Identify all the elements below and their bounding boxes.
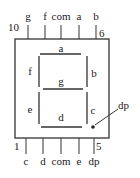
top-pin-label-a: a <box>77 11 82 22</box>
dp-leader-line <box>95 109 118 125</box>
seven-segment-drawing <box>0 0 140 178</box>
segment-label-b: b <box>91 68 97 79</box>
decimal-point-dot <box>91 125 95 129</box>
top-pin-label-com: com <box>52 11 71 22</box>
decimal-point-label: dp <box>118 100 129 111</box>
top-pin-label-f: f <box>43 11 47 22</box>
segment-label-g: g <box>58 76 64 87</box>
bottom-pin-lines <box>26 138 94 154</box>
segment-label-d: d <box>58 112 64 123</box>
bottom-pin-label-d: d <box>40 156 46 167</box>
pin-number-5: 5 <box>96 141 102 152</box>
pin-number-6: 6 <box>99 28 105 39</box>
top-pin-label-b: b <box>93 11 99 22</box>
bottom-pin-label-com: com <box>52 156 71 167</box>
segment-label-e: e <box>28 104 33 115</box>
bottom-pin-label-c: c <box>24 156 29 167</box>
top-pin-label-g: g <box>25 11 31 22</box>
pin-number-10: 10 <box>8 22 19 33</box>
top-pin-lines <box>28 25 96 39</box>
pin-number-1: 1 <box>14 141 20 152</box>
segment-label-f: f <box>28 66 32 77</box>
segment-label-c: c <box>91 105 96 116</box>
bottom-pin-label-e: e <box>77 156 82 167</box>
segment-label-a: a <box>59 43 64 54</box>
bottom-pin-label-dp: dp <box>89 156 100 167</box>
